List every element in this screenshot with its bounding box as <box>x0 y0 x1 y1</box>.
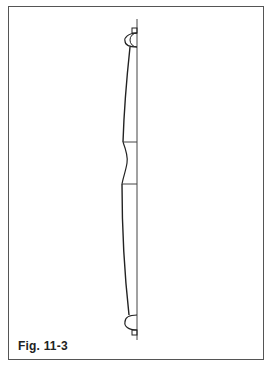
figure-caption: Fig. 11-3 <box>18 339 68 353</box>
grip <box>122 142 137 184</box>
top-nock-icon <box>125 28 137 47</box>
lower-limb <box>122 184 129 315</box>
bottom-nock-icon <box>125 315 137 335</box>
upper-limb <box>123 47 130 142</box>
bow-profile-diagram <box>0 0 273 366</box>
